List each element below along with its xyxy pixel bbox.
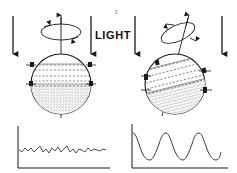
diagram-canvas: LIGHT 3 [0,0,237,173]
figure-root: LIGHT 3 [0,0,237,173]
marker-left-nw [30,62,34,67]
marker-right-se [203,87,207,93]
marker-left-ne [88,62,92,67]
marker-left-se [89,81,93,86]
marker-left-sw [29,81,33,86]
marker-right-w [144,74,148,80]
light-label: LIGHT [95,29,131,41]
